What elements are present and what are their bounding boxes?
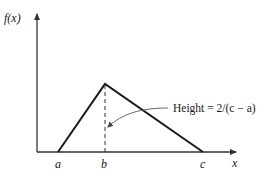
height-annotation: Height = 2/(c − a)	[173, 102, 256, 115]
triangle-pdf-curve	[58, 84, 203, 152]
point-a-label: a	[55, 157, 61, 171]
y-axis-label: f(x)	[4, 11, 21, 25]
x-axis-label: x	[231, 156, 238, 170]
point-b-label: b	[101, 157, 107, 171]
triangular-pdf-diagram: f(x) x a b c Height = 2/(c − a)	[0, 0, 270, 174]
point-c-label: c	[200, 157, 206, 171]
annotation-pointer-arrow	[108, 108, 168, 127]
